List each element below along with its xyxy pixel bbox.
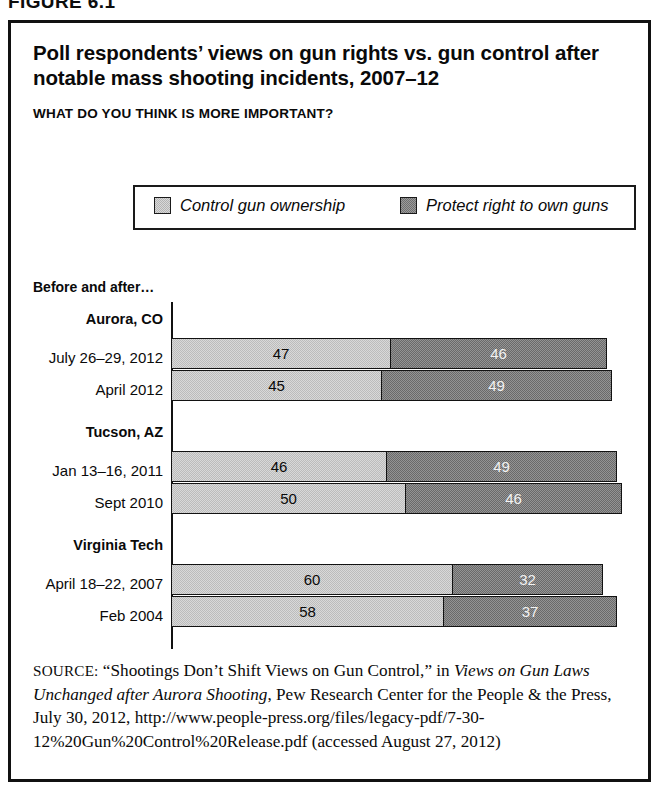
table-row: 58 37 <box>172 596 617 627</box>
source-note: SOURCE: “Shootings Don’t Shift Views on … <box>33 659 633 753</box>
row-label-sept-2010: Sept 2010 <box>15 494 163 511</box>
bar-segment-protect: 32 <box>452 564 603 595</box>
figure-running-head: FIGURE 6.1 <box>8 0 115 13</box>
bar-segment-protect: 49 <box>381 370 612 401</box>
table-row: 60 32 <box>172 564 603 595</box>
row-label-april-18-22-2007: April 18–22, 2007 <box>15 575 163 592</box>
source-label: SOURCE: <box>33 662 99 679</box>
bar-segment-control: 60 <box>171 564 454 595</box>
row-label-feb-2004: Feb 2004 <box>15 607 163 624</box>
figure-container: Poll respondents’ views on gun rights vs… <box>8 20 651 782</box>
bar-segment-protect: 46 <box>390 338 607 369</box>
table-row: 50 46 <box>172 483 622 514</box>
bar-segment-protect: 46 <box>405 483 622 514</box>
row-label-jan-13-16-2011: Jan 13–16, 2011 <box>15 462 163 479</box>
table-row: 46 49 <box>172 451 617 482</box>
table-row: 45 49 <box>172 370 612 401</box>
bar-segment-control: 45 <box>171 370 383 401</box>
group-label-tucson-az: Tucson, AZ <box>15 424 163 440</box>
bar-segment-protect: 37 <box>443 596 617 627</box>
group-label-virginia-tech: Virginia Tech <box>15 537 163 553</box>
row-label-april-2012: April 2012 <box>15 381 163 398</box>
bar-segment-control: 46 <box>171 451 388 482</box>
source-text-part-1: “Shootings Don’t Shift Views on Gun Cont… <box>99 661 454 680</box>
bar-segment-control: 58 <box>171 596 445 627</box>
bar-segment-control: 50 <box>171 483 407 514</box>
group-label-aurora-co: Aurora, CO <box>15 311 163 327</box>
row-label-july-26-29-2012: July 26–29, 2012 <box>15 349 163 366</box>
bar-segment-control: 47 <box>171 338 392 369</box>
table-row: 47 46 <box>172 338 607 369</box>
bar-segment-protect: 49 <box>386 451 617 482</box>
